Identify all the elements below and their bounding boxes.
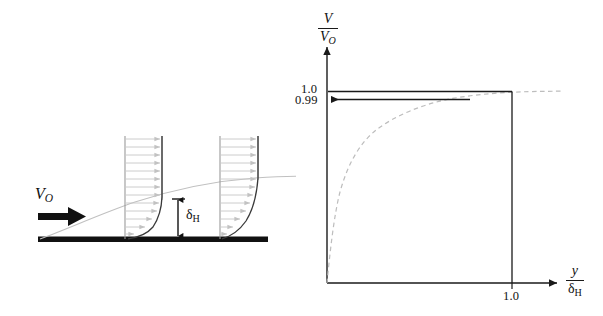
velocity-profile-upstream bbox=[125, 136, 162, 239]
flat-plate bbox=[38, 237, 268, 243]
delta-h-label: δH bbox=[186, 208, 200, 224]
normalized-velocity-curve bbox=[327, 91, 562, 283]
freestream-velocity-label: VO bbox=[35, 186, 53, 205]
delta-h-dimension-arrow bbox=[172, 199, 185, 236]
boundary-layer-figure: VO δH V VO 1.0 0.99 1.0 y δH bbox=[0, 0, 603, 316]
left-panel-graphics bbox=[0, 0, 603, 316]
plot-x-axis-label: y δH bbox=[566, 264, 584, 298]
right-panel-graphics bbox=[327, 47, 562, 289]
plot-y-axis-label: V VO bbox=[318, 12, 338, 46]
y-tick-label-0-99: 0.99 bbox=[295, 94, 318, 107]
velocity-profile-downstream bbox=[220, 136, 258, 239]
x-tick-label-1-0: 1.0 bbox=[503, 290, 519, 303]
